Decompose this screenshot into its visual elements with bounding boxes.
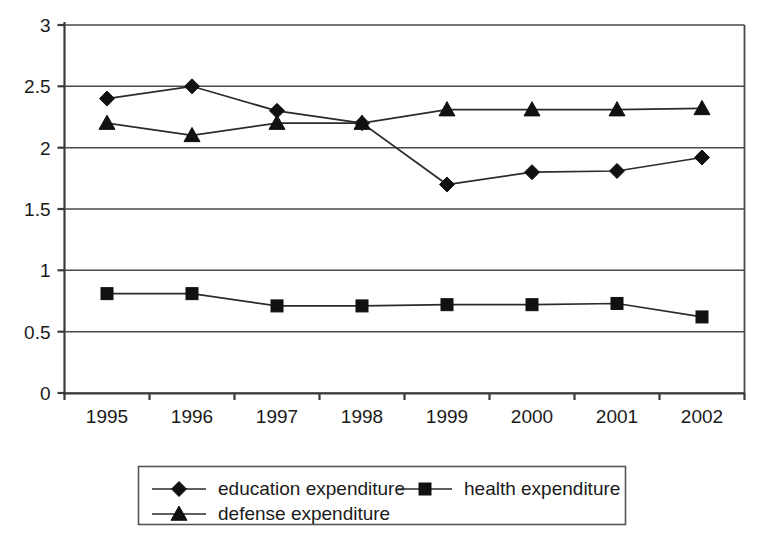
- data-point-marker: [526, 299, 538, 311]
- x-tick-label: 2002: [681, 406, 723, 427]
- gridlines: [65, 25, 745, 393]
- x-tick-label: 2000: [511, 406, 553, 427]
- y-tick-label: 0: [40, 383, 51, 404]
- y-tick-label: 1: [40, 260, 51, 281]
- data-point-marker: [440, 177, 455, 192]
- data-point-marker: [696, 311, 708, 323]
- legend-label: health expenditure: [464, 478, 620, 499]
- y-tick-labels: 00.511.522.53: [24, 15, 64, 404]
- data-point-marker: [694, 100, 710, 114]
- data-point-marker: [525, 165, 540, 180]
- x-tick-labels: 19951996199719981999200020012002: [65, 393, 745, 427]
- x-tick-label: 1999: [426, 406, 468, 427]
- legend-label: defense expenditure: [218, 503, 390, 524]
- data-point-marker: [356, 300, 368, 312]
- line-chart: 00.511.522.53 19951996199719981999200020…: [0, 0, 762, 551]
- data-series-group: [99, 79, 710, 323]
- legend-marker-square-icon: [419, 483, 431, 495]
- data-point-marker: [185, 79, 200, 94]
- data-point-marker: [610, 163, 625, 178]
- data-point-marker: [100, 91, 115, 106]
- data-point-marker: [611, 297, 623, 309]
- chart-legend: education expenditurehealth expenditured…: [139, 467, 626, 525]
- y-tick-label: 2.5: [24, 76, 50, 97]
- x-tick-label: 1997: [256, 406, 298, 427]
- x-tick-label: 2001: [596, 406, 638, 427]
- x-tick-label: 1998: [341, 406, 383, 427]
- data-point-marker: [441, 299, 453, 311]
- x-tick-label: 1995: [86, 406, 128, 427]
- legend-label: education expenditure: [218, 478, 405, 499]
- data-point-marker: [99, 115, 115, 129]
- y-tick-label: 2: [40, 138, 51, 159]
- data-point-marker: [271, 300, 283, 312]
- data-point-marker: [695, 150, 710, 165]
- series-defense-expenditure: [99, 100, 710, 141]
- y-tick-label: 3: [40, 15, 51, 36]
- y-tick-label: 1.5: [24, 199, 50, 220]
- y-tick-label: 0.5: [24, 322, 50, 343]
- data-point-marker: [186, 288, 198, 300]
- series-health-expenditure: [101, 288, 708, 323]
- chart-canvas: 00.511.522.53 19951996199719981999200020…: [0, 0, 762, 551]
- x-tick-label: 1996: [171, 406, 213, 427]
- data-point-marker: [101, 288, 113, 300]
